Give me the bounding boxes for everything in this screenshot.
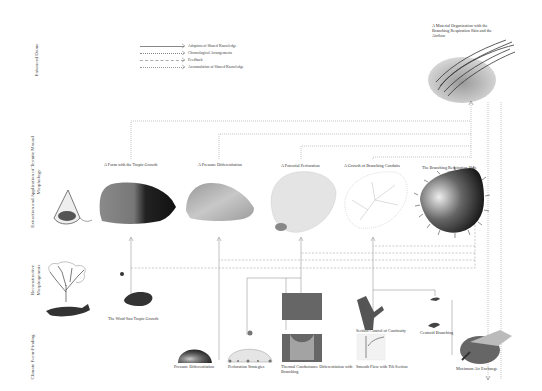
thermal-conductance-bottom-image (282, 334, 322, 362)
caption-wind-sun-growth: The Wind-Sun Tropic Growth (108, 316, 158, 321)
perforation-strategies-image (228, 331, 272, 363)
section-continuity-image (357, 296, 384, 330)
termite-mound-image (54, 190, 92, 224)
tropic-growth-form (100, 183, 176, 224)
caption-pressure-differentiation: A Pressure Differentiation (198, 162, 242, 167)
caption-perforation-strategies: Perforation Strategies (228, 364, 264, 369)
caption-maximum-air-exchange: Maximum Air Exchange (456, 366, 497, 371)
caption-branching-conduits: A Growth of Branching Conduits (344, 163, 400, 168)
caption-pressure-diff-climate: Pressure Differentiation (174, 364, 214, 369)
thermal-conductance-top-image (282, 293, 322, 320)
branching-respiration-skin-form (414, 166, 490, 238)
branching-conduits-form (345, 172, 407, 229)
diagram-canvas (0, 0, 542, 391)
caption-potential-perforation: A Potential Perforation (281, 163, 320, 168)
caption-section-continuity: Section Control of Continuity (356, 328, 406, 333)
pressure-sphere-image (178, 350, 212, 364)
caption-material-organization: A Material Organization with the Branchi… (432, 23, 496, 38)
maximum-air-exchange-image (460, 330, 512, 364)
caption-thermal-conductance: Thermal Conductance Differentiation with… (281, 364, 355, 374)
caption-smooth-flow: Smooth Flow with Tilt Section (356, 364, 408, 369)
pressure-differentiation-form (186, 183, 254, 221)
material-organization-image (428, 40, 515, 103)
caption-respiration-skin: The Branching Respiration Skin (422, 165, 476, 170)
wind-sun-growth-image (124, 292, 152, 306)
caption-tropic-growth: A Form with the Tropic Growth (104, 162, 157, 167)
centroid-branching-image (428, 298, 440, 328)
caption-centroid-branching: Centroid Branching (420, 330, 453, 335)
whale-image (46, 304, 90, 316)
tree-image (49, 262, 86, 302)
